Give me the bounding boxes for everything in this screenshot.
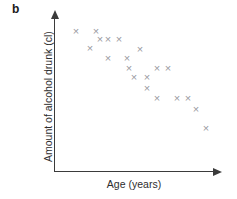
data-point-marker: ×	[142, 72, 153, 83]
y-axis-line	[54, 18, 55, 172]
x-axis-title: Age (years)	[54, 179, 214, 190]
scatter-plot-figure: b Amount of alcohol drunk (cl) Age (year…	[0, 0, 237, 199]
plot-area: ××××××××××××××××××××	[0, 0, 237, 199]
data-point-marker: ×	[103, 34, 114, 45]
data-point-marker: ×	[183, 93, 194, 104]
data-point-marker: ×	[122, 53, 133, 64]
panel-label: b	[12, 3, 19, 15]
data-point-marker: ×	[95, 34, 106, 45]
y-axis-title: Amount of alcohol drunk (cl)	[43, 12, 54, 162]
data-point-marker: ×	[172, 93, 183, 104]
x-axis-line	[54, 171, 214, 172]
data-point-marker: ×	[71, 26, 82, 37]
data-point-marker: ×	[91, 26, 102, 37]
data-point-marker: ×	[114, 34, 125, 45]
data-point-marker: ×	[163, 63, 174, 74]
data-point-marker: ×	[85, 43, 96, 54]
data-point-marker: ×	[135, 44, 146, 55]
data-point-marker: ×	[152, 93, 163, 104]
data-point-marker: ×	[103, 53, 114, 64]
data-point-marker: ×	[124, 63, 135, 74]
x-axis-arrowhead-icon	[213, 168, 222, 176]
data-point-marker: ×	[129, 72, 140, 83]
data-point-marker: ×	[142, 83, 153, 94]
data-point-marker: ×	[191, 104, 202, 115]
data-point-marker: ×	[152, 63, 163, 74]
data-point-marker: ×	[201, 123, 212, 134]
